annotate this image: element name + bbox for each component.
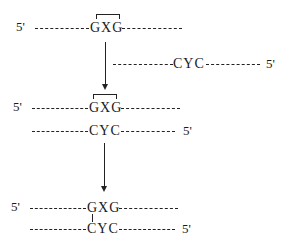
arrow-shaft (105, 42, 106, 86)
arrow-down-icon (102, 84, 108, 90)
five-prime-label: 5' (183, 124, 192, 138)
motif-gxg: GXG (90, 21, 123, 35)
motif-gxg: GXG (87, 201, 120, 215)
strand-dashes-left (30, 229, 86, 230)
strand-dashes-right (121, 108, 180, 109)
strand-dashes-right (122, 28, 182, 29)
motif-bracket (93, 94, 117, 99)
five-prime-label: 5' (11, 200, 20, 214)
strand-dashes-right (206, 64, 260, 65)
strand-dashes-left (113, 64, 173, 65)
five-prime-label: 5' (182, 222, 191, 236)
five-prime-label: 5' (13, 100, 22, 114)
strand-dashes-left (32, 108, 88, 109)
motif-cyc: CYC (87, 222, 119, 236)
five-prime-label: 5' (16, 20, 25, 34)
strand-dashes-left (35, 28, 89, 29)
five-prime-label: 5' (266, 57, 275, 71)
strand-dashes-right (119, 229, 175, 230)
strand-dashes-left (30, 208, 86, 209)
strand-dashes-left (32, 131, 88, 132)
motif-gxg: GXG (89, 101, 122, 115)
motif-cyc: CYC (173, 57, 205, 71)
motif-bracket (96, 14, 120, 19)
arrow-down-icon (101, 186, 107, 192)
strand-dashes-right (119, 208, 178, 209)
strand-dashes-right (121, 131, 175, 132)
motif-cyc: CYC (89, 124, 121, 138)
arrow-shaft (104, 143, 105, 187)
